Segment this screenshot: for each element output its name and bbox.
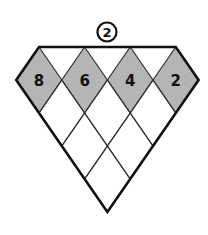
puzzle-number: 2 bbox=[102, 25, 111, 40]
puzzle-number-badge: 2 bbox=[98, 23, 117, 42]
puzzle-figure: 2 8 6 4 2 bbox=[0, 0, 208, 235]
lower-rows-grid bbox=[39, 80, 176, 212]
diamond-cell-r4-1 bbox=[85, 146, 131, 212]
cell-value-3: 4 bbox=[125, 72, 135, 90]
diamond-cell-r3-2 bbox=[107, 113, 153, 179]
diamond-cell-r3-1 bbox=[62, 113, 108, 179]
cell-value-1: 8 bbox=[34, 72, 44, 90]
cell-value-4: 2 bbox=[171, 72, 181, 90]
diamond-pyramid-diagram: 2 8 6 4 2 bbox=[0, 0, 208, 235]
cell-value-2: 6 bbox=[79, 72, 89, 90]
